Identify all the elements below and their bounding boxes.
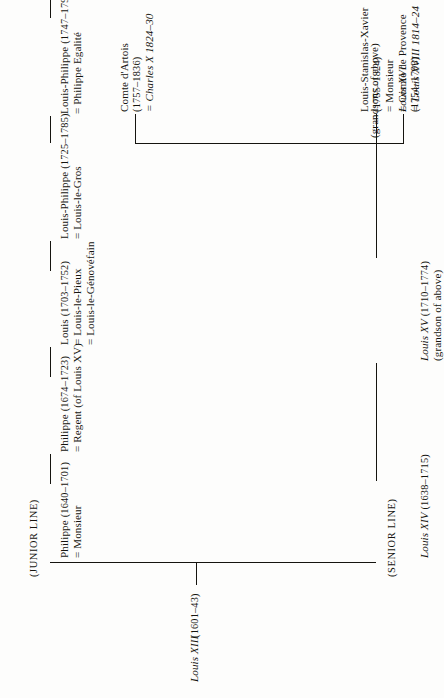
junior-2-alias-1: = Louis-le-Génovéfain [84,241,97,345]
junior-4-alias-0: = Philippe Egalité [71,0,84,114]
senior-0-name: Louis XIV [418,512,430,558]
grandson-2-dates: (1754–1793) [409,57,421,112]
senior-1-name: Louis XV [418,319,430,361]
connector-senior-0-1 [376,363,377,481]
junior-3-name: Louis-Philippe [58,172,70,239]
node-grandson-0: Comte d'Artois (1757–1836) = Charles X 1… [118,14,156,112]
connector-grandson-0 [135,114,136,144]
connector-grandson-1 [376,114,377,144]
connector-junior-3-4 [50,116,51,143]
root-dates: (1601–43) [189,593,201,638]
junior-4-dates: (1747–1793) [59,0,70,44]
junior-0-name: Philippe [58,520,70,558]
connector-junior-2-3 [50,241,51,271]
label-junior-line: (JUNIOR LINE) [28,499,39,577]
node-grandson-2: Louis XVI (1754–1793) [396,57,421,112]
node-junior-4: Louis-Philippe (1747–1793) = Philippe Eg… [58,0,84,114]
connector-grandsons-bracket [135,143,403,144]
junior-0-dates: (1640–1701) [59,462,70,517]
grandson-1-name: Louis-Stanislas-Xavier [358,6,371,112]
junior-2-dates: (1703–1752) [59,261,70,316]
connector-root-stub [196,563,197,585]
junior-4-name: Louis-Philippe [58,47,70,114]
grandson-1-alias-0: = Monsieur [383,6,396,112]
junior-3-alias-0: = Louis-le-Gros [71,113,84,239]
senior-1-dates: (1710–1774) [419,261,430,316]
senior-1-note-0: (grandson of above) [431,261,444,361]
connector-junior-4-5 [50,0,51,18]
connector-junior-1-2 [50,347,51,377]
node-junior-0: Philippe (1640–1701) = Monsieur [58,462,84,558]
connector-grandson-2 [403,114,404,144]
junior-2-name: Louis [58,319,70,345]
junior-1-name: Philippe [58,414,70,452]
grandson-2-name: Louis XVI [396,57,409,112]
node-junior-3: Louis-Philippe (1725–1785) = Louis-le-Gr… [58,113,84,239]
node-senior-0: Louis XIV (1638–1715) [418,454,431,558]
node-junior-1: Philippe (1674–1723) = Regent (of Louis … [58,343,84,452]
junior-1-alias-0: = Regent (of Louis XV) [71,343,84,452]
junior-3-dates: (1725–1785) [59,113,70,168]
node-root-louis-xiii: Louis XIII [188,636,201,682]
junior-2-alias-0: = Louis-le-Pieux [71,241,84,345]
connector-main-trunk [50,562,376,563]
label-senior-line: (SENIOR LINE) [386,499,397,578]
grandson-0-dates: (1757–1836) [131,14,143,112]
grandson-0-name: Comte d'Artois [118,14,131,112]
senior-0-dates: (1638–1715) [419,454,430,509]
connector-junior-0-1 [50,454,51,484]
junior-1-dates: (1674–1723) [59,356,70,411]
node-junior-2: Louis (1703–1752) = Louis-le-Pieux = Lou… [58,241,97,345]
grandson-1-dates: (1755–1824) [371,6,383,112]
root-dates-wrap: (1601–43) [189,593,201,638]
root-name: Louis XIII [188,636,201,682]
grandson-0-alias-0: = Charles X 1824–30 [143,14,156,112]
node-senior-1: Louis XV (1710–1774) (grandson of above) [418,261,444,361]
connector-senior-1-bracket [376,144,377,258]
junior-0-alias-0: = Monsieur [71,462,84,558]
